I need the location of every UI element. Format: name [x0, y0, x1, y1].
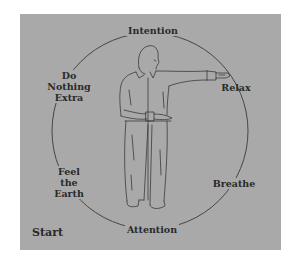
label-do-nothing-extra-line-3: Extra [47, 92, 90, 103]
label-attention: Attention [125, 224, 179, 235]
label-intention: Intention [126, 25, 180, 36]
label-feel-the-earth-line-3: Earth [54, 188, 84, 199]
label-breathe: Breathe [211, 178, 258, 189]
label-do-nothing-extra-line-1: Do [47, 70, 90, 81]
label-relax-line-1: Relax [221, 82, 250, 93]
start-label: Start [32, 226, 63, 239]
label-feel-the-earth: Feel the Earth [52, 166, 86, 199]
label-feel-the-earth-line-1: Feel [54, 166, 84, 177]
label-do-nothing-extra-line-2: Nothing [47, 81, 90, 92]
label-relax: Relax [219, 82, 252, 93]
label-feel-the-earth-line-2: the [54, 177, 84, 188]
label-do-nothing-extra: Do Nothing Extra [45, 70, 92, 103]
label-breathe-line-1: Breathe [213, 178, 256, 189]
